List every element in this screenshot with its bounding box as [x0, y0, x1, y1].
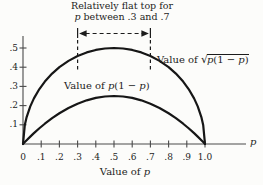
curve-p-times-1-minus-p — [23, 96, 205, 144]
label-text: ) — [146, 80, 150, 91]
radicand: p(1 − p) — [207, 54, 249, 66]
label-text: Value of — [100, 166, 144, 177]
x-tick-label: .1 — [37, 152, 46, 162]
label-text: ) — [245, 54, 249, 65]
x-tick-label: .8 — [164, 152, 173, 162]
label-text: (1 − — [114, 80, 139, 91]
inner-curve-label: Value of p(1 − p) — [64, 80, 150, 92]
x-axis-title: Value of p — [40, 166, 210, 178]
y-tick-label: .5 — [0, 43, 18, 53]
label-text: Value of — [64, 80, 108, 91]
x-tick-label: .3 — [73, 152, 82, 162]
math-var: p — [144, 166, 150, 177]
x-tick-label: 1.0 — [198, 152, 212, 162]
x-tick-label: 0 — [20, 152, 26, 162]
flat-top-annotation-graphics — [78, 28, 151, 72]
arrowhead-left-icon — [79, 30, 87, 36]
annotation-line2: p between .3 and .7 — [32, 12, 212, 23]
arrowhead-right-icon — [141, 30, 149, 36]
y-tick-label: .4 — [0, 62, 18, 72]
x-axis-end-label: p — [250, 136, 256, 148]
x-tick-label: .2 — [55, 152, 64, 162]
label-text: between .3 and .7 — [81, 11, 170, 22]
y-tick-label: .2 — [0, 100, 18, 110]
x-tick-label: .5 — [110, 152, 119, 162]
label-text: Value of — [157, 54, 201, 65]
function-plot-figure: Relatively flat top for p between .3 and… — [0, 0, 263, 185]
x-tick-label: .7 — [146, 152, 155, 162]
x-tick-label: .4 — [92, 152, 101, 162]
y-tick-label: .1 — [0, 119, 18, 129]
y-tick-label: .3 — [0, 81, 18, 91]
sqrt-curve-label: Value of √p(1 − p) — [157, 54, 249, 67]
label-text: (1 − — [213, 54, 238, 65]
flat-top-annotation: Relatively flat top for p between .3 and… — [32, 1, 212, 23]
x-tick-label: .9 — [183, 152, 192, 162]
x-tick-label: .6 — [128, 152, 137, 162]
